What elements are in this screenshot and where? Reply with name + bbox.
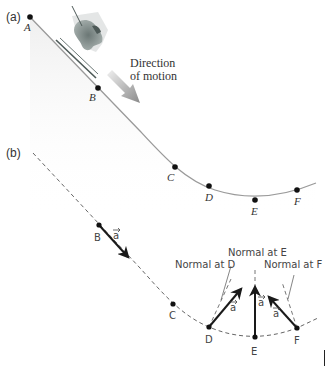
point-b-E: E bbox=[251, 334, 258, 357]
normal-line-d bbox=[209, 279, 231, 327]
point-label: F bbox=[294, 335, 300, 346]
point-b-B: B bbox=[94, 222, 102, 243]
text-cursor bbox=[324, 350, 325, 366]
point-label: C bbox=[169, 310, 176, 321]
normal-label-d: Normal at D bbox=[175, 259, 236, 270]
vector-label-d: a bbox=[230, 300, 237, 313]
point-label: D bbox=[204, 191, 213, 203]
panel-a-label: (a) bbox=[6, 10, 21, 24]
point-label: B bbox=[94, 232, 101, 243]
leader-line-f bbox=[288, 275, 294, 299]
point-b-F: F bbox=[294, 325, 300, 346]
panel-b-label: (b) bbox=[6, 146, 21, 160]
acceleration-vector-d bbox=[209, 289, 241, 327]
point-label: F bbox=[293, 195, 301, 207]
vector-label-f: a bbox=[273, 306, 280, 319]
vector-label-b: a bbox=[113, 228, 120, 241]
point-label: E bbox=[251, 346, 257, 357]
normal-label-f: Normal at F bbox=[264, 259, 323, 270]
leader-line-d bbox=[221, 266, 231, 300]
point-b-C: C bbox=[169, 301, 176, 321]
point-label: E bbox=[250, 205, 258, 217]
direction-text-line-1: Direction bbox=[130, 56, 175, 70]
point-label: B bbox=[89, 91, 96, 103]
ski-slope-diagram: (a) Direction of motion A B C D E F (b) bbox=[0, 0, 328, 371]
point-b-D: D bbox=[205, 324, 213, 345]
point-label: D bbox=[205, 334, 213, 345]
slope-shading bbox=[30, 17, 316, 215]
panel-a: (a) Direction of motion A B C D E F bbox=[6, 6, 316, 217]
direction-text-line-2: of motion bbox=[130, 69, 177, 83]
normal-label-e: Normal at E bbox=[228, 247, 287, 258]
point-label: A bbox=[23, 21, 31, 33]
point-label: C bbox=[167, 171, 175, 183]
vector-label-e: a bbox=[258, 295, 265, 308]
